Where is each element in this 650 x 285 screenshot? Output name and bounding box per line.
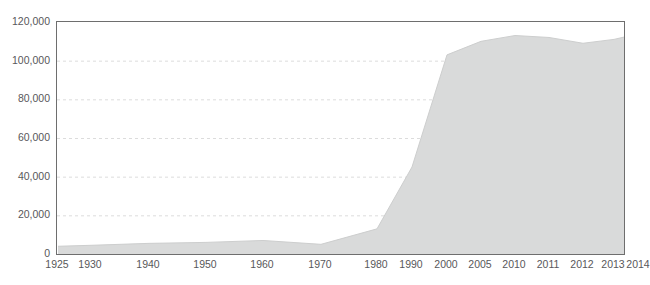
x-axis-tick-5: 1970 — [308, 258, 331, 270]
x-axis-tick-9: 2005 — [468, 258, 491, 270]
plot-area — [56, 21, 625, 255]
x-axis-tick-2: 1940 — [136, 258, 159, 270]
x-axis-tick-1: 1930 — [78, 258, 101, 270]
area-series-path — [58, 34, 624, 254]
x-axis-tick-4: 1960 — [250, 258, 273, 270]
x-axis-tick-10: 2010 — [502, 258, 525, 270]
x-axis-tick-3: 1950 — [193, 258, 216, 270]
x-axis-tick-8: 2000 — [434, 258, 457, 270]
y-axis-tick-6: 0 — [0, 248, 50, 258]
y-axis-tick-5: 20,000 — [0, 209, 50, 219]
y-axis-tick-1: 100,000 — [0, 55, 50, 65]
x-axis-tick-0: 1925 — [45, 258, 68, 270]
x-axis-tick-7: 1990 — [399, 258, 422, 270]
x-axis-tick-13: 2013 — [601, 258, 624, 270]
x-axis-tick-14: 2014 — [626, 258, 649, 270]
x-axis-tick-12: 2012 — [570, 258, 593, 270]
x-axis-tick-11: 2011 — [537, 258, 560, 270]
y-axis-tick-3: 60,000 — [0, 132, 50, 142]
area-series-svg — [57, 22, 624, 254]
x-axis-tick-labels: 1925193019401950196019701980199020002005… — [0, 258, 643, 278]
y-axis-tick-4: 40,000 — [0, 171, 50, 181]
y-axis-tick-2: 80,000 — [0, 93, 50, 103]
y-axis-tick-0: 120,000 — [0, 16, 50, 26]
x-axis-tick-6: 1980 — [364, 258, 387, 270]
